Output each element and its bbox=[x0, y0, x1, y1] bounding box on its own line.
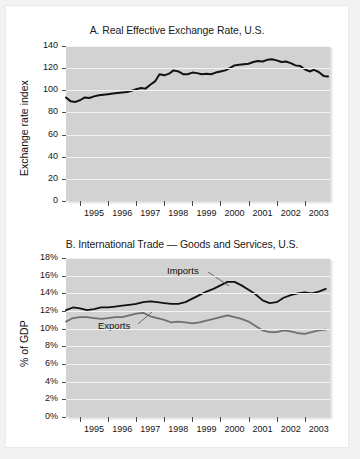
x-axis-tick bbox=[277, 417, 278, 422]
y-axis-label: 0% bbox=[24, 411, 58, 421]
chart-b-plot-area: Imports Exports bbox=[66, 258, 330, 417]
gridline bbox=[66, 90, 330, 91]
imports-leader-line bbox=[208, 272, 229, 286]
chart-b-leader-lines bbox=[66, 258, 330, 417]
x-axis-tick bbox=[108, 417, 109, 422]
gridline bbox=[66, 311, 330, 312]
chart-a-title: A. Real Effective Exchange Rate, U.S. bbox=[6, 24, 348, 36]
x-axis-tick bbox=[220, 417, 221, 422]
y-axis-label: 140 bbox=[24, 40, 58, 50]
y-axis-tick bbox=[62, 417, 66, 418]
x-axis-tick bbox=[192, 201, 193, 206]
x-axis-tick bbox=[108, 201, 109, 206]
x-axis-tick bbox=[305, 201, 306, 206]
y-axis-label: 80 bbox=[24, 106, 58, 116]
x-axis-tick bbox=[192, 417, 193, 422]
y-axis-tick bbox=[62, 311, 66, 312]
x-axis-tick bbox=[80, 417, 81, 422]
y-axis-tick bbox=[62, 90, 66, 91]
y-axis-tick bbox=[62, 68, 66, 69]
y-axis-label: 100 bbox=[24, 84, 58, 94]
x-axis-tick bbox=[220, 201, 221, 206]
gridline bbox=[66, 135, 330, 136]
exports-leader-line bbox=[138, 312, 152, 324]
chart-a-series-canvas bbox=[66, 46, 330, 201]
gridline bbox=[66, 112, 330, 113]
y-axis-tick bbox=[62, 382, 66, 383]
y-axis-label: 16% bbox=[24, 270, 58, 280]
gridline bbox=[66, 258, 330, 259]
gridline bbox=[66, 346, 330, 347]
chart-a-plot-area bbox=[66, 46, 330, 201]
y-axis-label: 18% bbox=[24, 252, 58, 262]
y-axis-tick bbox=[62, 201, 66, 202]
figure-sheet: A. Real Effective Exchange Rate, U.S. Ex… bbox=[6, 6, 348, 447]
y-axis-tick bbox=[62, 329, 66, 330]
x-axis-tick bbox=[80, 201, 81, 206]
x-axis-tick bbox=[249, 417, 250, 422]
y-axis-tick bbox=[62, 258, 66, 259]
gridline bbox=[66, 68, 330, 69]
x-axis-tick bbox=[249, 201, 250, 206]
y-axis-label: 4% bbox=[24, 376, 58, 386]
gridline bbox=[66, 329, 330, 330]
y-axis-tick bbox=[62, 46, 66, 47]
gridline bbox=[66, 293, 330, 294]
gridline bbox=[66, 157, 330, 158]
figure-page: A. Real Effective Exchange Rate, U.S. Ex… bbox=[0, 0, 360, 459]
y-axis-label: 10% bbox=[24, 323, 58, 333]
y-axis-label: 2% bbox=[24, 393, 58, 403]
x-axis-label: 2003 bbox=[303, 424, 335, 434]
series-line-real-effective-exchange-rate bbox=[66, 59, 328, 102]
x-axis-tick bbox=[277, 201, 278, 206]
x-axis-tick bbox=[136, 201, 137, 206]
y-axis-label: 8% bbox=[24, 340, 58, 350]
x-axis-label: 2003 bbox=[303, 208, 335, 218]
y-axis-tick bbox=[62, 346, 66, 347]
x-axis-tick bbox=[164, 201, 165, 206]
y-axis-tick bbox=[62, 276, 66, 277]
x-axis-tick bbox=[305, 417, 306, 422]
y-axis-tick bbox=[62, 112, 66, 113]
y-axis-tick bbox=[62, 364, 66, 365]
gridline bbox=[66, 46, 330, 47]
y-axis-tick bbox=[62, 399, 66, 400]
chart-panel-b: B. International Trade — Goods and Servi… bbox=[6, 232, 348, 438]
gridline bbox=[66, 382, 330, 383]
y-axis-tick bbox=[62, 135, 66, 136]
y-axis-tick bbox=[62, 293, 66, 294]
gridline bbox=[66, 364, 330, 365]
y-axis-label: 60 bbox=[24, 129, 58, 139]
y-axis-tick bbox=[62, 157, 66, 158]
x-axis-tick bbox=[164, 417, 165, 422]
y-axis-label: 12% bbox=[24, 305, 58, 315]
y-axis-tick bbox=[62, 179, 66, 180]
gridline bbox=[66, 179, 330, 180]
y-axis-label: 20 bbox=[24, 173, 58, 183]
y-axis-label: 0 bbox=[24, 195, 58, 205]
chart-panel-a: A. Real Effective Exchange Rate, U.S. Ex… bbox=[6, 14, 348, 226]
gridline bbox=[66, 276, 330, 277]
y-axis-label: 14% bbox=[24, 287, 58, 297]
gridline bbox=[66, 399, 330, 400]
y-axis-label: 120 bbox=[24, 62, 58, 72]
chart-b-title: B. International Trade — Goods and Servi… bbox=[16, 238, 348, 250]
y-axis-label: 6% bbox=[24, 358, 58, 368]
x-axis-tick bbox=[136, 417, 137, 422]
y-axis-label: 40 bbox=[24, 151, 58, 161]
